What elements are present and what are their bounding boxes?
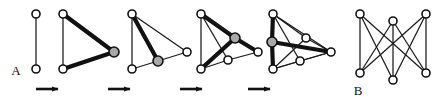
graph-node bbox=[197, 10, 205, 18]
graph-sequence-diagram: AB bbox=[0, 0, 440, 105]
graph-node bbox=[269, 65, 277, 73]
graph-node bbox=[183, 48, 191, 56]
graph-node-highlighted bbox=[230, 33, 240, 43]
graph-node bbox=[128, 10, 136, 18]
label-B: B bbox=[354, 83, 363, 98]
figure-container: AB bbox=[0, 0, 440, 105]
graph-node bbox=[422, 10, 430, 18]
graph-node-highlighted bbox=[109, 47, 119, 57]
graph-node bbox=[269, 10, 277, 18]
graph-node-highlighted bbox=[153, 56, 163, 66]
graph-node bbox=[59, 10, 67, 18]
graph-node bbox=[59, 65, 67, 73]
graph-node-highlighted bbox=[267, 37, 277, 47]
graph-node bbox=[302, 34, 310, 42]
graph-node bbox=[224, 56, 232, 64]
graph-node bbox=[356, 69, 364, 77]
graph-node bbox=[389, 76, 397, 84]
graph-node bbox=[389, 17, 397, 25]
graph-node bbox=[197, 65, 205, 73]
graph-node bbox=[32, 10, 40, 18]
graph-node bbox=[356, 10, 364, 18]
graph-node bbox=[128, 65, 136, 73]
graph-node bbox=[32, 65, 40, 73]
label-A: A bbox=[11, 63, 21, 78]
graph-node bbox=[327, 48, 335, 56]
graph-node bbox=[422, 69, 430, 77]
graph-node bbox=[296, 57, 304, 65]
graph-node bbox=[254, 48, 262, 56]
